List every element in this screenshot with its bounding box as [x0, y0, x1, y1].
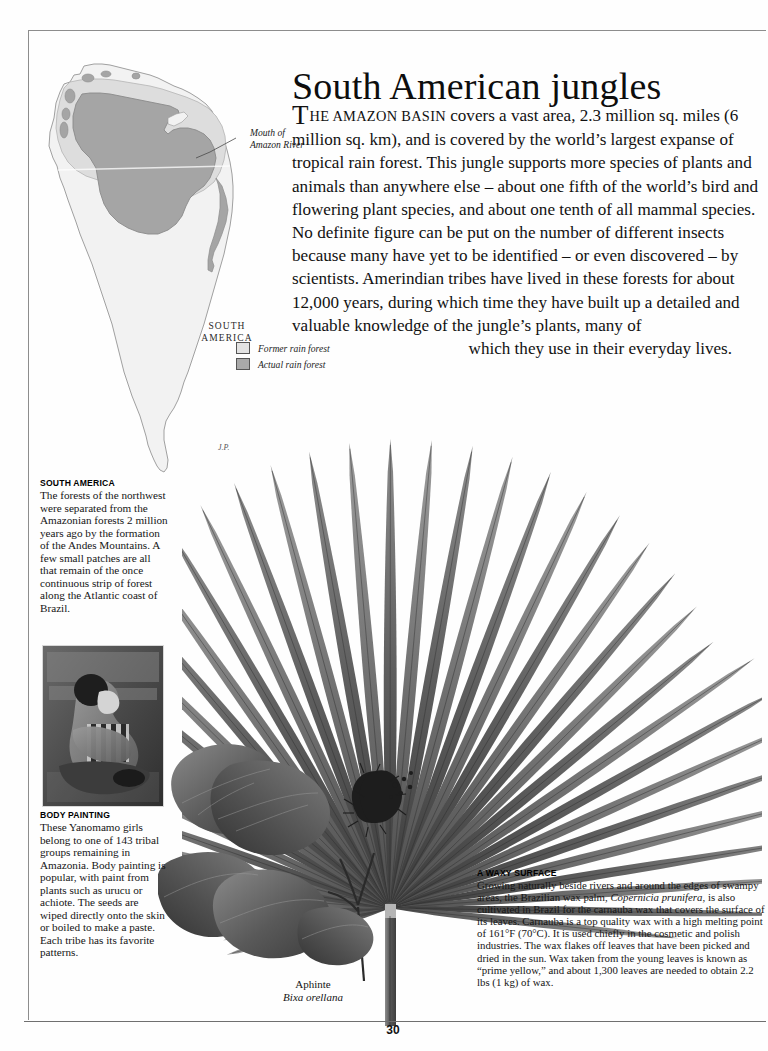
waxy-species-name: Copernicia prunifera	[610, 891, 702, 903]
page-frame-left-rule	[28, 30, 29, 1020]
caption-south-america-title: SOUTH AMERICA	[40, 478, 170, 488]
caption-body-painting: BODY PAINTING These Yanomamo girls belon…	[40, 810, 166, 959]
annatto-seed-pods	[343, 763, 406, 837]
plant-caption-aphinte: Aphinte Bixa orellana	[258, 978, 368, 1004]
waxy-text-part2: , is also cultivated in Brazil for the c…	[477, 891, 765, 988]
body-painting-photo-graphic	[43, 646, 163, 806]
intro-body-text: covers a vast area, 2.3 million sq. mile…	[292, 106, 758, 335]
caption-waxy-surface-title: A WAXY SURFACE	[477, 868, 765, 878]
intro-smallcaps: HE AMAZON BASIN	[310, 108, 446, 124]
book-page: SOUTH AMERICA Mouth of Amazon River J.P.…	[0, 0, 768, 1051]
annatto-plant-illustration	[158, 735, 418, 985]
annatto-leaf-upper-right	[211, 760, 330, 855]
caption-waxy-surface-body: Growing naturally beside rivers and arou…	[477, 879, 765, 988]
page-bottom-rule	[24, 1021, 766, 1022]
caption-body-painting-body: These Yanomamo girls belong to one of 14…	[40, 821, 166, 959]
photo-vessel-opening	[113, 769, 145, 787]
legend-swatch-former-icon	[236, 342, 250, 354]
map-country-label: SOUTH AMERICA	[192, 320, 262, 344]
page-title: South American jungles	[292, 65, 762, 107]
page-frame-top-rule	[28, 30, 766, 31]
page-number: 30	[378, 1023, 408, 1037]
plant-common-name: Aphinte	[258, 978, 368, 991]
annatto-plant-graphic	[158, 735, 418, 985]
plant-latin-name: Bixa orellana	[258, 991, 368, 1004]
caption-waxy-surface: A WAXY SURFACE Growing naturally beside …	[477, 868, 765, 988]
caption-south-america: SOUTH AMERICA The forests of the northwe…	[40, 478, 170, 614]
intro-dropcap: T	[292, 100, 310, 130]
caption-south-america-body: The forests of the northwest were separa…	[40, 489, 170, 614]
caption-body-painting-title: BODY PAINTING	[40, 810, 166, 820]
body-painting-photograph	[42, 645, 164, 807]
intro-paragraph: THE AMAZON BASIN covers a vast area, 2.3…	[292, 104, 760, 360]
